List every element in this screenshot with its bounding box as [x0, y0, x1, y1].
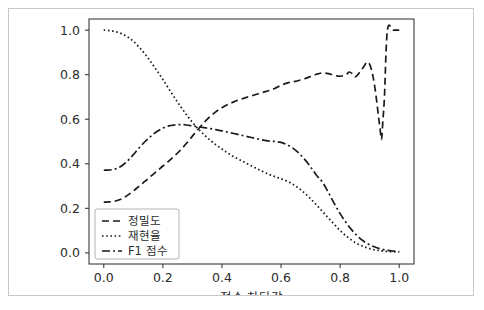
x-tick-label: 0.4 [212, 270, 232, 285]
x-axis-title: 점수 차단값 [220, 290, 284, 295]
legend-label-2: F1 점수 [128, 244, 168, 258]
chart-legend[interactable]: 정밀도재현율F1 점수 [95, 209, 179, 259]
precision-recall-f1-chart: 0.00.20.40.60.81.0 0.00.20.40.60.81.0 점수… [9, 9, 473, 295]
x-tick-label: 1.0 [389, 270, 409, 285]
y-tick-label: 1.0 [60, 23, 80, 38]
y-tick-label: 0.2 [60, 201, 80, 216]
x-tick-label: 0.2 [153, 270, 173, 285]
y-tick-label: 0.8 [60, 67, 80, 82]
legend-label-1: 재현율 [128, 229, 161, 243]
x-tick-label: 0.8 [330, 270, 350, 285]
y-tick-label: 0.0 [60, 245, 80, 260]
x-tick-label: 0.0 [94, 270, 114, 285]
x-tick-label: 0.6 [271, 270, 291, 285]
y-tick-label: 0.6 [60, 112, 80, 127]
y-tick-label: 0.4 [60, 156, 80, 171]
figure-frame: 0.00.20.40.60.81.0 0.00.20.40.60.81.0 점수… [8, 8, 474, 296]
legend-label-0: 정밀도 [128, 214, 161, 228]
